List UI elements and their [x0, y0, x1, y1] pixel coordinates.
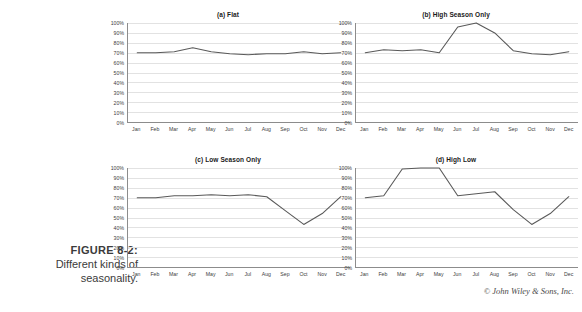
chart-title-a: (a) Flat [104, 10, 352, 19]
x-tick-label: Jun [225, 125, 233, 133]
x-tick-label: Mar [169, 270, 178, 278]
series-svg-b [356, 23, 578, 122]
x-axis-labels-a: JanFebMarAprMayJunJulAugSepOctNovDec [127, 125, 350, 135]
x-tick-label: Dec [564, 270, 573, 278]
x-tick-label: Jun [453, 125, 461, 133]
y-tick-label: 20% [342, 101, 352, 106]
x-tick-label: Jan [360, 270, 368, 278]
y-tick-label: 40% [342, 226, 352, 231]
x-tick-label: Dec [564, 125, 573, 133]
x-axis-labels-c: JanFebMarAprMayJunJulAugSepOctNovDec [127, 270, 350, 280]
y-tick-label: 90% [114, 31, 124, 36]
x-tick-label: Jul [244, 270, 251, 278]
copyright-credit: © John Wiley & Sons, Inc. [0, 286, 574, 296]
y-tick-label: 60% [342, 61, 352, 66]
x-tick-label: Aug [490, 270, 499, 278]
y-tick-label: 70% [114, 51, 124, 56]
x-tick-label: Nov [546, 125, 555, 133]
x-tick-label: May [434, 270, 444, 278]
y-axis-labels-b: 100%90%80%70%60%50%40%30%20%10%0% [332, 23, 354, 123]
x-tick-label: Oct [299, 270, 307, 278]
x-tick-label: Apr [188, 270, 196, 278]
y-tick-label: 80% [342, 186, 352, 191]
y-tick-label: 90% [342, 31, 352, 36]
x-tick-label: Apr [188, 125, 196, 133]
x-tick-label: Oct [527, 125, 535, 133]
chart-panel-b: (b) High Season Only 100%90%80%70%60%50%… [332, 10, 580, 150]
y-tick-label: 10% [342, 256, 352, 261]
plot-wrap-c: 100%90%80%70%60%50%40%30%20%10%0% JanFeb… [104, 168, 352, 286]
y-tick-label: 100% [339, 166, 352, 171]
y-tick-label: 20% [114, 101, 124, 106]
y-tick-label: 80% [342, 41, 352, 46]
plot-wrap-b: 100%90%80%70%60%50%40%30%20%10%0% JanFeb… [332, 23, 580, 141]
y-tick-label: 70% [342, 51, 352, 56]
x-tick-label: Jan [360, 125, 368, 133]
x-tick-label: Feb [378, 125, 387, 133]
x-tick-label: Aug [490, 125, 499, 133]
y-tick-label: 100% [111, 166, 124, 171]
x-tick-label: Sep [280, 125, 289, 133]
series-svg-c [128, 168, 350, 267]
x-tick-label: Jun [225, 270, 233, 278]
y-tick-label: 100% [339, 21, 352, 26]
y-tick-label: 30% [342, 236, 352, 241]
y-tick-label: 50% [342, 71, 352, 76]
x-tick-label: Sep [508, 125, 517, 133]
x-tick-label: Oct [299, 125, 307, 133]
y-tick-label: 40% [114, 226, 124, 231]
series-line-b [365, 23, 568, 55]
plot-area-a [127, 23, 350, 123]
plot-area-c [127, 168, 350, 268]
series-line-a [137, 48, 340, 55]
x-tick-label: Jan [132, 270, 140, 278]
y-tick-label: 60% [342, 206, 352, 211]
y-tick-label: 50% [342, 216, 352, 221]
x-tick-label: Jul [244, 125, 251, 133]
y-tick-label: 60% [114, 61, 124, 66]
x-tick-label: Aug [262, 125, 271, 133]
x-tick-label: Oct [527, 270, 535, 278]
y-tick-label: 90% [114, 176, 124, 181]
x-axis-labels-b: JanFebMarAprMayJunJulAugSepOctNovDec [355, 125, 578, 135]
y-tick-label: 20% [342, 246, 352, 251]
y-tick-label: 0% [117, 266, 125, 271]
y-tick-label: 70% [114, 196, 124, 201]
plot-wrap-a: 100%90%80%70%60%50%40%30%20%10%0% JanFeb… [104, 23, 352, 141]
y-tick-label: 30% [342, 91, 352, 96]
x-tick-label: Mar [169, 125, 178, 133]
chart-title-b: (b) High Season Only [332, 10, 580, 19]
chart-panel-d: (d) High Low 100%90%80%70%60%50%40%30%20… [332, 155, 580, 295]
plot-area-d [355, 168, 578, 268]
x-tick-label: May [206, 270, 216, 278]
y-tick-label: 30% [114, 91, 124, 96]
x-tick-label: Nov [546, 270, 555, 278]
series-line-d [365, 168, 568, 224]
y-tick-label: 80% [114, 41, 124, 46]
y-tick-label: 10% [114, 111, 124, 116]
y-tick-label: 80% [114, 186, 124, 191]
chart-panel-c: (c) Low Season Only 100%90%80%70%60%50%4… [104, 155, 352, 295]
series-svg-a [128, 23, 350, 122]
x-tick-label: Jun [453, 270, 461, 278]
y-axis-labels-d: 100%90%80%70%60%50%40%30%20%10%0% [332, 168, 354, 268]
x-tick-label: Apr [416, 270, 424, 278]
x-tick-label: Jan [132, 125, 140, 133]
y-tick-label: 0% [117, 121, 125, 126]
y-tick-label: 50% [114, 216, 124, 221]
chart-title-c: (c) Low Season Only [104, 155, 352, 164]
x-tick-label: Mar [397, 125, 406, 133]
y-tick-label: 10% [342, 111, 352, 116]
x-tick-label: Feb [378, 270, 387, 278]
x-tick-label: Jul [472, 125, 479, 133]
y-tick-label: 90% [342, 176, 352, 181]
y-tick-label: 50% [114, 71, 124, 76]
series-line-c [137, 195, 340, 225]
x-tick-label: May [206, 125, 216, 133]
y-tick-label: 0% [345, 121, 353, 126]
y-tick-label: 0% [345, 266, 353, 271]
x-tick-label: Sep [508, 270, 517, 278]
y-tick-label: 20% [114, 246, 124, 251]
y-tick-label: 40% [114, 81, 124, 86]
x-tick-label: Nov [318, 125, 327, 133]
